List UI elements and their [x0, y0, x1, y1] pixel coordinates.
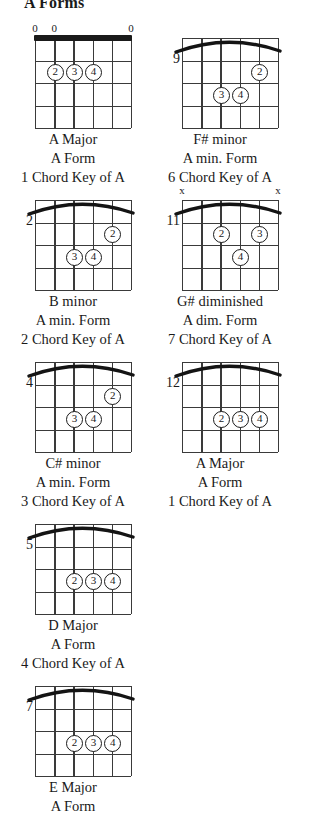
- fret-line-3: [182, 268, 278, 269]
- fret-line-3: [35, 268, 131, 269]
- finger-marker-3: 3: [66, 64, 83, 81]
- fret-line-1: [182, 385, 278, 386]
- string-line-6: [131, 524, 132, 614]
- fret-line-0: [182, 362, 278, 363]
- chord-form: A Form: [0, 635, 149, 654]
- finger-marker-2: 2: [47, 64, 64, 81]
- fretboard: 234000: [25, 24, 121, 128]
- chord-diagram-3: 2342B minorA min. Form2 Chord Key of A: [25, 186, 121, 290]
- finger-marker-2: 2: [251, 64, 268, 81]
- fret-line-0: [182, 200, 278, 201]
- chord-name: D Major: [0, 616, 149, 635]
- fretboard: 2344: [25, 348, 121, 452]
- chord-name: C# minor: [0, 454, 149, 473]
- open-mute-markers: 000: [35, 24, 131, 38]
- string-line-6: [278, 362, 279, 452]
- finger-marker-4: 4: [251, 411, 268, 428]
- finger-marker-3: 3: [85, 735, 102, 752]
- finger-marker-4: 4: [232, 249, 249, 266]
- fret-line-1: [35, 61, 131, 62]
- finger-marker-2: 2: [213, 411, 230, 428]
- fret-position-label: 11: [160, 214, 180, 228]
- string-line-6: [278, 38, 279, 128]
- fret-line-0: [35, 524, 131, 525]
- chord-caption: A MajorA Form1 Chord Key of A: [0, 130, 149, 187]
- fretboard: 2342: [25, 186, 121, 290]
- string-line-6: [131, 686, 132, 776]
- chord-caption: D MajorA Form4 Chord Key of A: [0, 616, 149, 673]
- chord-caption: F# minorA min. Form6 Chord Key of A: [144, 130, 296, 187]
- chord-caption: E MajorA Form: [0, 778, 149, 816]
- fret-line-0: [35, 200, 131, 201]
- chord-diagram-2: 2349F# minorA min. Form6 Chord Key of A: [172, 24, 268, 128]
- fret-position-label: 5: [13, 538, 33, 552]
- fret-line-2: [182, 407, 278, 408]
- chord-degree: 3 Chord Key of A: [0, 492, 149, 511]
- fret-line-3: [35, 754, 131, 755]
- fret-line-2: [35, 569, 131, 570]
- chord-form: A Form: [144, 473, 296, 492]
- fret-line-2: [35, 407, 131, 408]
- chord-caption: A MajorA Form1 Chord Key of A: [144, 454, 296, 511]
- chord-caption: C# minorA min. Form3 Chord Key of A: [0, 454, 149, 511]
- fret-line-1: [35, 223, 131, 224]
- fret-line-0: [35, 362, 131, 363]
- fret-line-1: [182, 223, 278, 224]
- chord-form: A min. Form: [0, 311, 149, 330]
- chord-chart-page: A Forms 234000A MajorA Form1 Chord Key o…: [0, 0, 315, 830]
- chord-degree: 4 Chord Key of A: [0, 654, 149, 673]
- fretboard: 2347: [25, 672, 121, 776]
- fret-line-3: [182, 106, 278, 107]
- fret-line-1: [35, 709, 131, 710]
- finger-marker-4: 4: [104, 735, 121, 752]
- fret-grid: 234: [182, 200, 278, 290]
- fret-line-0: [182, 38, 278, 39]
- finger-marker-2: 2: [213, 226, 230, 243]
- finger-marker-2: 2: [104, 226, 121, 243]
- chord-form: A min. Form: [0, 473, 149, 492]
- fret-line-3: [35, 592, 131, 593]
- fret-line-2: [182, 245, 278, 246]
- finger-marker-2: 2: [104, 388, 121, 405]
- finger-marker-3: 3: [66, 411, 83, 428]
- finger-marker-2: 2: [66, 573, 83, 590]
- fret-position-label: 9: [160, 52, 180, 66]
- chord-degree: 1 Chord Key of A: [144, 492, 296, 511]
- open-string-icon-6: 0: [128, 23, 134, 34]
- finger-marker-4: 4: [85, 411, 102, 428]
- finger-marker-3: 3: [232, 411, 249, 428]
- finger-marker-3: 3: [85, 573, 102, 590]
- chord-diagram-4: 234xx11G# diminishedA dim. Form7 Chord K…: [172, 186, 268, 290]
- open-string-icon-2: 0: [51, 23, 57, 34]
- fret-grid: 234: [35, 362, 131, 452]
- open-string-icon-1: 0: [32, 23, 38, 34]
- fret-grid: 234: [35, 686, 131, 776]
- string-line-6: [131, 362, 132, 452]
- chord-diagram-1: 234000A MajorA Form1 Chord Key of A: [25, 24, 121, 128]
- fret-position-label: 12: [160, 376, 180, 390]
- fret-line-1: [35, 547, 131, 548]
- chord-name: G# diminished: [144, 292, 296, 311]
- chord-form: A Form: [0, 797, 149, 816]
- chord-caption: G# diminishedA dim. Form7 Chord Key of A: [144, 292, 296, 349]
- fret-line-0: [35, 686, 131, 687]
- mute-string-icon-6: x: [275, 185, 281, 196]
- finger-marker-3: 3: [66, 249, 83, 266]
- finger-marker-4: 4: [85, 249, 102, 266]
- chord-degree: 2 Chord Key of A: [0, 330, 149, 349]
- chord-diagram-8: 2347E MajorA Form: [25, 672, 121, 776]
- mute-string-icon-1: x: [179, 185, 185, 196]
- fret-grid: 234: [35, 38, 131, 128]
- string-line-6: [131, 38, 132, 128]
- chord-caption: B minorA min. Form2 Chord Key of A: [0, 292, 149, 349]
- chord-form: A dim. Form: [144, 311, 296, 330]
- fretboard: 2349: [172, 24, 268, 128]
- string-line-6: [131, 200, 132, 290]
- fretboard: 23412: [172, 348, 268, 452]
- chord-diagram-6: 23412A MajorA Form1 Chord Key of A: [172, 348, 268, 452]
- finger-marker-3: 3: [251, 226, 268, 243]
- finger-marker-2: 2: [66, 735, 83, 752]
- fret-line-3: [35, 430, 131, 431]
- finger-marker-4: 4: [232, 87, 249, 104]
- fret-grid: 234: [35, 524, 131, 614]
